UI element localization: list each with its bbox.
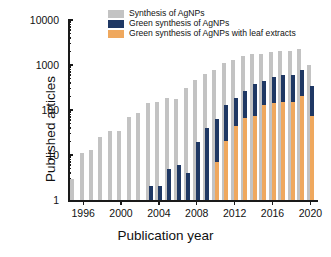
y-tick-minor — [68, 119, 71, 120]
y-axis-title: Published articles — [43, 76, 58, 182]
y-tick-minor — [68, 161, 71, 162]
chart-figure: 110100100010000 199620002004200820122016… — [0, 0, 331, 257]
bar — [281, 102, 285, 200]
bar — [149, 186, 153, 200]
bar — [117, 131, 121, 200]
y-tick-minor — [68, 21, 71, 22]
bar — [136, 113, 140, 200]
y-tick-major — [68, 109, 73, 110]
x-tick — [272, 200, 273, 205]
bar — [224, 141, 228, 200]
y-tick-minor — [68, 116, 71, 117]
bar — [234, 126, 238, 200]
legend-swatch-icon — [108, 30, 124, 38]
bar — [300, 96, 304, 200]
y-tick-minor — [68, 164, 71, 165]
legend-label: Green synthesis of AgNPs with leaf extra… — [129, 29, 296, 38]
bar — [155, 102, 159, 200]
y-tick-minor — [68, 141, 71, 142]
legend-label: Synthesis of AgNPs — [129, 9, 204, 18]
x-tick — [120, 200, 121, 205]
y-tick-minor — [68, 156, 71, 157]
bar — [186, 173, 190, 200]
bar — [205, 128, 209, 200]
y-tick-minor — [68, 133, 71, 134]
bar — [167, 169, 171, 200]
bar — [158, 186, 162, 200]
y-tick-major — [68, 64, 73, 65]
bar — [215, 162, 219, 200]
bar — [70, 179, 74, 200]
x-tick-label: 1996 — [71, 207, 94, 219]
y-tick-minor — [68, 159, 71, 160]
y-tick-minor — [68, 172, 71, 173]
y-tick-minor — [68, 78, 71, 79]
legend-item: Green synthesis of AgNPs with leaf extra… — [108, 29, 296, 38]
x-tick — [234, 200, 235, 205]
y-tick-minor — [68, 71, 71, 72]
y-tick-minor — [68, 88, 71, 89]
x-tick — [83, 200, 84, 205]
x-axis-title: Publication year — [0, 228, 331, 243]
y-tick-major — [68, 154, 73, 155]
y-tick-label: 1000 — [0, 59, 59, 71]
bar — [253, 116, 257, 200]
legend-item: Green synthesis of AgNPs — [108, 19, 296, 28]
x-tick-label: 2012 — [223, 207, 246, 219]
bar — [291, 102, 295, 200]
y-tick-minor — [68, 123, 71, 124]
y-tick-minor — [68, 24, 71, 25]
x-tick-label: 2000 — [109, 207, 132, 219]
y-tick-label: 10000 — [0, 14, 59, 26]
x-tick-label: 2008 — [185, 207, 208, 219]
bar — [127, 117, 131, 200]
plot-area — [68, 20, 318, 200]
y-tick-minor — [68, 43, 71, 44]
bar — [310, 116, 314, 200]
bar — [243, 118, 247, 200]
y-tick-major — [68, 19, 73, 20]
bar — [80, 153, 84, 200]
chart-legend: Synthesis of AgNPsGreen synthesis of AgN… — [108, 9, 296, 38]
y-tick-label: 1 — [0, 194, 59, 206]
y-tick-minor — [68, 111, 71, 112]
legend-label: Green synthesis of AgNPs — [129, 19, 229, 28]
bar — [272, 103, 276, 200]
y-tick-minor — [68, 127, 71, 128]
legend-swatch-icon — [108, 10, 124, 18]
x-tick — [196, 200, 197, 205]
y-tick-minor — [68, 168, 71, 169]
y-tick-minor — [68, 51, 71, 52]
x-tick-label: 2016 — [261, 207, 284, 219]
y-tick-minor — [68, 26, 71, 27]
x-tick-label: 2004 — [147, 207, 170, 219]
y-tick-minor — [68, 37, 71, 38]
x-axis-line — [68, 200, 318, 202]
bar — [196, 142, 200, 200]
bar — [98, 137, 102, 200]
legend-item: Synthesis of AgNPs — [108, 9, 296, 18]
y-tick-minor — [68, 29, 71, 30]
x-tick — [158, 200, 159, 205]
y-tick-minor — [68, 74, 71, 75]
bar — [177, 165, 181, 200]
legend-swatch-icon — [108, 20, 124, 28]
y-tick-minor — [68, 96, 71, 97]
bar — [262, 105, 266, 200]
y-tick-minor — [68, 66, 71, 67]
x-tick-label: 2020 — [299, 207, 322, 219]
y-tick-minor — [68, 69, 71, 70]
y-tick-minor — [68, 114, 71, 115]
y-tick-minor — [68, 82, 71, 83]
bar — [108, 131, 112, 200]
y-tick-minor — [68, 33, 71, 34]
bar — [89, 150, 93, 200]
x-tick — [310, 200, 311, 205]
